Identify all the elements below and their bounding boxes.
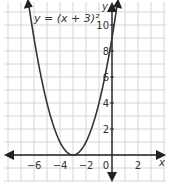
x-tick-label: −4 [53, 160, 68, 171]
graph: −6−4−202246810 y = (x + 3)² x y [0, 0, 170, 184]
tick-labels: −6−4−202246810 [27, 20, 142, 171]
y-tick-label: 8 [103, 46, 109, 57]
y-axis-label: y [101, 1, 109, 12]
x-tick-label: −6 [27, 160, 42, 171]
equation-label: y = (x + 3)² [33, 12, 100, 25]
y-tick-label: 2 [103, 124, 109, 135]
x-tick-label: 2 [135, 160, 141, 171]
x-axis-label: x [158, 157, 165, 168]
y-tick-label: 6 [103, 72, 109, 83]
y-tick-label: 4 [103, 98, 109, 109]
x-tick-label: 0 [103, 160, 109, 171]
x-tick-label: −2 [79, 160, 94, 171]
axes [4, 2, 166, 182]
curve-arrow-left [24, 0, 33, 9]
